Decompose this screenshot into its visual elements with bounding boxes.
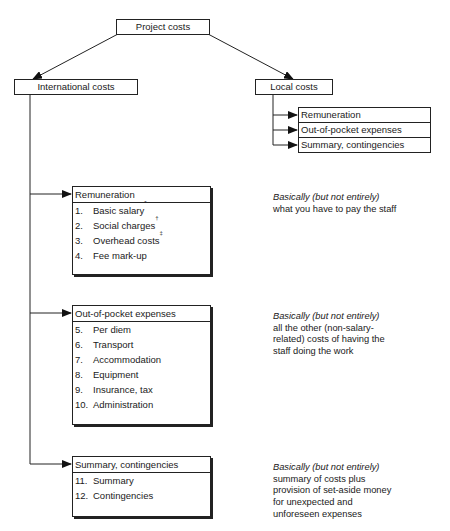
footnote-mark: ‡ — [160, 233, 163, 248]
note-text: summary of costs plus provision of set-a… — [273, 474, 398, 521]
item-number: 3. — [75, 233, 93, 248]
item-number: 12. — [75, 488, 93, 503]
item-number: 6. — [75, 337, 93, 352]
remuneration-note: Basically (but not entirely) what you ha… — [273, 192, 433, 215]
card-title: Remuneration — [73, 187, 210, 203]
list-item: 5.Per diem — [73, 322, 210, 337]
list-item: 10.Administration — [73, 397, 210, 412]
item-label: Per diem — [93, 322, 131, 337]
list-item: 4.Fee mark-up — [73, 248, 210, 263]
item-number: 10. — [75, 397, 93, 412]
remuneration-card: Remuneration 1.Basic salary* 2.Social ch… — [72, 186, 211, 275]
list-item: 9.Insurance, tax — [73, 382, 210, 397]
local-out-of-pocket-node: Out-of-pocket expenses — [298, 122, 431, 138]
item-number: 4. — [75, 248, 93, 263]
item-label: Transport — [93, 337, 133, 352]
note-lead: Basically (but not entirely) — [273, 311, 433, 323]
list-item: 1.Basic salary* — [73, 203, 210, 218]
list-item: 11.Summary — [73, 473, 210, 488]
note-lead: Basically (but not entirely) — [273, 462, 433, 474]
out-of-pocket-card: Out-of-pocket expenses 5.Per diem 6.Tran… — [72, 305, 211, 425]
summary-note: Basically (but not entirely) summary of … — [273, 462, 433, 521]
list-item: 3.Overhead costs‡ — [73, 233, 210, 248]
out-of-pocket-note: Basically (but not entirely) all the oth… — [273, 311, 433, 358]
item-label: Basic salary — [93, 203, 144, 218]
item-label: Contingencies — [93, 488, 153, 503]
footnote-mark: † — [155, 218, 158, 233]
item-number: 1. — [75, 203, 93, 218]
list-item: 6.Transport — [73, 337, 210, 352]
list-item: 7.Accommodation — [73, 352, 210, 367]
item-number: 7. — [75, 352, 93, 367]
item-label: Accommodation — [93, 352, 161, 367]
local-costs-node: Local costs — [255, 79, 333, 95]
item-number: 11. — [75, 473, 93, 488]
item-label: Administration — [93, 397, 153, 412]
footnote-mark: * — [144, 203, 146, 218]
item-label: Insurance, tax — [93, 382, 153, 397]
item-label: Social charges — [93, 218, 155, 233]
item-label: Summary — [93, 473, 134, 488]
note-text: all the other (non-salary-related) costs… — [273, 323, 398, 358]
list-item: 12.Contingencies — [73, 488, 210, 503]
local-summary-label: Summary, contingencies — [301, 139, 404, 150]
project-costs-node: Project costs — [116, 19, 210, 35]
card-title: Summary, contingencies — [73, 457, 210, 473]
item-label: Equipment — [93, 367, 138, 382]
item-label: Overhead costs — [93, 233, 160, 248]
local-costs-label: Local costs — [270, 81, 318, 92]
note-text: what you have to pay the staff — [273, 204, 396, 214]
list-item: 2.Social charges† — [73, 218, 210, 233]
item-number: 9. — [75, 382, 93, 397]
note-lead: Basically (but not entirely) — [273, 192, 433, 204]
item-label: Fee mark-up — [93, 248, 147, 263]
list-item: 8.Equipment — [73, 367, 210, 382]
card-title: Out-of-pocket expenses — [73, 306, 210, 322]
item-number: 2. — [75, 218, 93, 233]
local-out-of-pocket-label: Out-of-pocket expenses — [301, 124, 402, 135]
local-summary-node: Summary, contingencies — [298, 137, 431, 153]
international-costs-node: International costs — [14, 79, 138, 95]
international-costs-label: International costs — [37, 81, 114, 92]
local-remuneration-label: Remuneration — [301, 109, 361, 120]
item-number: 8. — [75, 367, 93, 382]
summary-card: Summary, contingencies 11.Summary 12.Con… — [72, 456, 211, 517]
local-remuneration-node: Remuneration — [298, 107, 431, 123]
project-costs-label: Project costs — [136, 21, 190, 32]
item-number: 5. — [75, 322, 93, 337]
